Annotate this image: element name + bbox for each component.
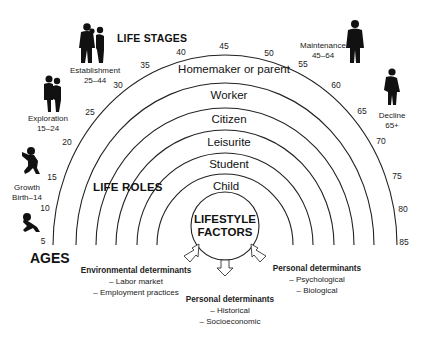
age-label-55: 55 — [298, 60, 307, 69]
age-label-15: 15 — [47, 173, 56, 182]
determinant-item: – Historical — [186, 306, 274, 317]
stage-growth: Growth Birth–14 — [12, 183, 42, 203]
crawling-baby-icon — [23, 213, 40, 232]
determinant-item: – Employment practices — [81, 288, 192, 299]
lifestyle-factors-line1: LIFESTYLE — [194, 213, 256, 226]
role-citizen: Citizen — [211, 114, 246, 126]
life-career-rainbow-diagram: LIFE STAGES LIFE ROLES AGES Homemaker or… — [0, 0, 428, 337]
ages-heading: AGES — [30, 251, 70, 265]
age-label-20: 20 — [62, 138, 71, 147]
running-child-icon — [22, 147, 40, 174]
determinant-item: – Biological — [273, 286, 361, 297]
age-label-50: 50 — [264, 49, 273, 58]
age-label-65: 65 — [357, 107, 366, 116]
environmental-determinants: Environmental determinants – Labor marke… — [81, 265, 192, 298]
stage-maintenance-name: Maintenance — [300, 41, 346, 51]
stage-establishment: Establishment 25–44 — [70, 66, 120, 86]
age-label-5: 5 — [41, 237, 46, 246]
age-label-25: 25 — [85, 108, 94, 117]
role-worker: Worker — [211, 90, 248, 102]
age-label-45: 45 — [219, 42, 228, 51]
stage-maintenance: Maintenance 45–64 — [300, 41, 346, 61]
stage-decline-range: 65+ — [379, 121, 406, 131]
role-homemaker-or-parent: Homemaker or parent — [178, 64, 290, 76]
age-label-40: 40 — [176, 48, 185, 57]
role-child: Child — [213, 181, 239, 193]
stage-decline: Decline 65+ — [379, 111, 406, 131]
arrow-right-icon — [251, 244, 266, 262]
age-label-70: 70 — [376, 137, 385, 146]
young-couple-icon — [44, 76, 61, 113]
determinant-item: – Labor market — [81, 277, 192, 288]
life-roles-heading: LIFE ROLES — [93, 182, 163, 194]
personal-determinants-title: Personal determinants — [273, 264, 361, 273]
lifestyle-factors-label: LIFESTYLE FACTORS — [194, 213, 256, 239]
arrow-left-icon — [184, 244, 199, 262]
age-label-85: 85 — [399, 238, 408, 247]
stage-exploration-range: 15–24 — [28, 124, 68, 134]
environmental-determinants-title: Environmental determinants — [81, 266, 192, 275]
role-student: Student — [209, 159, 249, 171]
age-label-10: 10 — [40, 204, 49, 213]
role-leisurite: Leisurite — [207, 137, 250, 149]
stage-establishment-range: 25–44 — [70, 76, 120, 86]
life-stages-heading: LIFE STAGES — [117, 33, 187, 44]
stage-maintenance-range: 45–64 — [300, 51, 346, 61]
age-label-80: 80 — [398, 205, 407, 214]
determinant-item: – Socioeconomic — [186, 317, 274, 328]
stage-growth-name: Growth — [12, 183, 42, 193]
arrow-down-icon — [217, 260, 233, 276]
personal-determinants-psychological: Personal determinants – Psychological – … — [273, 263, 361, 296]
standing-man-icon — [346, 20, 364, 63]
determinant-item: – Psychological — [273, 275, 361, 286]
elderly-person-icon — [384, 68, 400, 105]
family-icon — [79, 23, 104, 63]
age-label-60: 60 — [331, 81, 340, 90]
stage-growth-range: Birth–14 — [12, 193, 42, 203]
age-label-35: 35 — [140, 61, 149, 70]
stage-exploration: Exploration 15–24 — [28, 114, 68, 134]
stage-exploration-name: Exploration — [28, 114, 68, 124]
stage-establishment-name: Establishment — [70, 66, 120, 76]
personal-determinants-title: Personal determinants — [186, 295, 274, 304]
lifestyle-factors-line2: FACTORS — [194, 226, 256, 239]
stage-decline-name: Decline — [379, 111, 406, 121]
age-label-75: 75 — [392, 172, 401, 181]
personal-determinants-historical: Personal determinants – Historical – Soc… — [186, 294, 274, 327]
